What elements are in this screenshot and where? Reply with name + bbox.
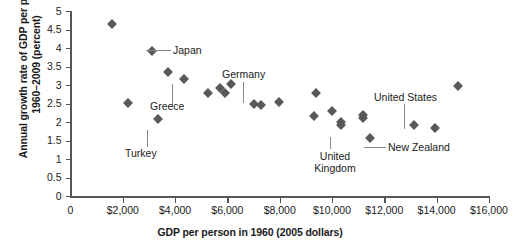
data-point	[226, 79, 236, 89]
data-point	[274, 97, 284, 107]
y-tick-label: 1.5	[34, 135, 62, 146]
y-tick-label: 4	[34, 43, 62, 54]
data-point	[203, 88, 213, 98]
data-point	[179, 74, 189, 84]
leader-line-united-kingdom	[330, 137, 331, 149]
x-tick-label: $2,000	[96, 205, 150, 216]
y-tick-mark	[66, 141, 71, 142]
y-tick-label: 5	[34, 6, 62, 17]
y-tick-mark	[66, 48, 71, 49]
x-axis-label: GDP per person in 1960 (2005 dollars)	[0, 226, 500, 238]
annotation-united-kingdom: United Kingdom	[308, 150, 362, 174]
data-point	[163, 67, 173, 77]
y-tick-mark	[66, 11, 71, 12]
x-tick-label: $8,000	[253, 205, 307, 216]
x-tick-mark	[227, 198, 228, 203]
data-point	[220, 88, 230, 98]
x-tick-mark	[123, 198, 124, 203]
data-point	[107, 19, 117, 29]
y-tick-label: 3.5	[34, 61, 62, 72]
y-tick-mark	[66, 122, 71, 123]
data-point	[327, 106, 337, 116]
x-tick-label: 0	[44, 205, 98, 216]
x-tick-label: $6,000	[200, 205, 254, 216]
x-tick-label: $14,000	[410, 205, 464, 216]
y-tick-label: 2.5	[34, 98, 62, 109]
y-tick-label: 3	[34, 80, 62, 91]
y-tick-label: 1	[34, 154, 62, 165]
x-tick-mark	[437, 198, 438, 203]
data-point	[311, 88, 321, 98]
data-point	[430, 123, 440, 133]
leader-line-united-states	[404, 104, 405, 129]
data-point	[310, 111, 320, 121]
x-tick-mark	[489, 198, 490, 203]
y-tick-mark	[66, 30, 71, 31]
y-tick-label: 0.5	[34, 172, 62, 183]
x-tick-label: $16,000	[462, 205, 513, 216]
data-point	[453, 81, 463, 91]
leader-line-turkey	[147, 130, 148, 147]
annotation-germany: Germany	[222, 68, 265, 80]
y-tick-mark	[66, 85, 71, 86]
data-point	[256, 100, 266, 110]
x-tick-label: $4,000	[148, 205, 202, 216]
x-tick-mark	[332, 198, 333, 203]
y-tick-label: 4.5	[34, 24, 62, 35]
data-point	[365, 133, 375, 143]
leader-line-germany	[243, 82, 244, 103]
data-point	[123, 98, 133, 108]
annotation-turkey: Turkey	[125, 147, 157, 159]
annotation-greece: Greece	[150, 100, 184, 112]
data-point	[409, 120, 419, 130]
y-tick-mark	[66, 67, 71, 68]
y-tick-mark	[66, 159, 71, 160]
x-tick-mark	[175, 198, 176, 203]
y-tick-label: 0	[34, 191, 62, 202]
y-tick-mark	[66, 104, 71, 105]
x-tick-label: $10,000	[305, 205, 359, 216]
annotation-new-zealand: New Zealand	[388, 141, 450, 153]
y-tick-label: 2	[34, 117, 62, 128]
x-tick-label: $12,000	[357, 205, 411, 216]
leader-line-japan	[146, 50, 171, 51]
x-tick-mark	[384, 198, 385, 203]
y-tick-mark	[66, 196, 71, 197]
annotation-united-states: United States	[374, 91, 437, 103]
leader-line-new-zealand	[364, 147, 386, 148]
y-tick-mark	[66, 178, 71, 179]
x-tick-mark	[280, 198, 281, 203]
annotation-japan: Japan	[173, 44, 202, 56]
data-point	[153, 114, 163, 124]
